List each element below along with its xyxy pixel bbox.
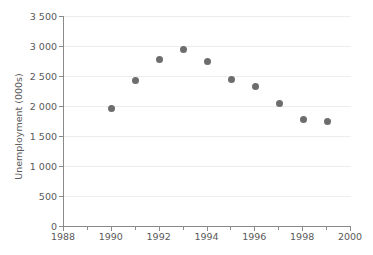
y-tick-mark (59, 106, 63, 107)
y-tick-mark (59, 46, 63, 47)
gridline (64, 106, 351, 107)
y-axis: 05001 0001 5002 0002 5003 0003 500 (0, 0, 59, 255)
gridline (64, 16, 351, 17)
data-point (132, 77, 139, 84)
data-point (204, 58, 211, 65)
gridline (64, 136, 351, 137)
gridline (64, 196, 351, 197)
data-point (324, 118, 331, 125)
x-tick-mark (159, 227, 160, 231)
x-tick-mark (111, 227, 112, 231)
x-minor-tick-mark (326, 227, 327, 230)
y-axis-title: Unemployment (000s) (13, 57, 24, 197)
data-point (156, 56, 163, 63)
x-minor-tick-mark (230, 227, 231, 230)
x-tick-mark (207, 227, 208, 231)
chart-figure: 05001 0001 5002 0002 5003 0003 500 Unemp… (0, 0, 373, 255)
data-point (108, 105, 115, 112)
x-tick-mark (350, 227, 351, 231)
x-minor-tick-mark (135, 227, 136, 230)
y-tick-mark (59, 196, 63, 197)
x-tick-mark (302, 227, 303, 231)
data-point (228, 76, 235, 83)
y-tick-label: 0 (0, 221, 57, 232)
plot-area (63, 16, 351, 227)
x-tick-label: 1998 (290, 231, 314, 242)
x-tick-label: 1996 (242, 231, 266, 242)
x-tick-mark (254, 227, 255, 231)
x-tick-label: 1992 (147, 231, 171, 242)
x-axis: 1988199019921994199619982000 (0, 231, 373, 249)
data-point (180, 46, 187, 53)
y-tick-mark (59, 16, 63, 17)
y-tick-label: 500 (0, 191, 57, 202)
y-tick-label: 1 000 (0, 161, 57, 172)
x-tick-label: 1990 (99, 231, 123, 242)
x-tick-mark (63, 227, 64, 231)
data-point (276, 100, 283, 107)
x-minor-tick-mark (278, 227, 279, 230)
y-tick-label: 2 500 (0, 71, 57, 82)
y-tick-label: 2 000 (0, 101, 57, 112)
x-minor-tick-mark (87, 227, 88, 230)
x-tick-label: 1994 (194, 231, 218, 242)
y-tick-mark (59, 76, 63, 77)
x-tick-label: 1988 (51, 231, 75, 242)
y-tick-label: 3 500 (0, 11, 57, 22)
data-point (252, 83, 259, 90)
gridline (64, 46, 351, 47)
x-minor-tick-mark (183, 227, 184, 230)
y-tick-label: 1 500 (0, 131, 57, 142)
y-tick-mark (59, 166, 63, 167)
data-point (300, 116, 307, 123)
gridline (64, 166, 351, 167)
y-tick-label: 3 000 (0, 41, 57, 52)
x-tick-label: 2000 (338, 231, 362, 242)
gridline (64, 76, 351, 77)
y-tick-mark (59, 136, 63, 137)
